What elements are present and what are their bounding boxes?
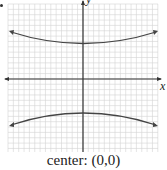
chart-caption: center: (0,0) (0, 151, 167, 170)
x-axis-left-arrow-icon (4, 77, 9, 81)
y-axis-top-arrow-icon (81, 0, 85, 5)
hyperbola-plot: x y (0, 0, 167, 152)
y-axis-label: y (85, 0, 92, 6)
x-axis-label: x (159, 79, 166, 93)
lower-left-arrow-icon (9, 122, 14, 127)
lower-right-arrow-icon (153, 122, 158, 127)
